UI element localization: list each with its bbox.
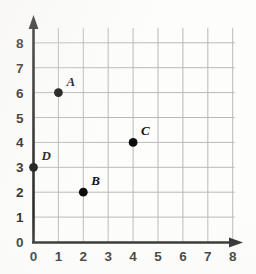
- y-tick-label: 1: [16, 210, 24, 225]
- x-tick-label: 3: [104, 249, 112, 264]
- point-marker-c: [129, 138, 138, 147]
- plotted-point: C: [129, 123, 150, 146]
- y-tick-label: 4: [16, 135, 24, 150]
- y-axis-arrowhead: [29, 15, 39, 29]
- x-tick-label: 2: [80, 249, 88, 264]
- x-tick-label: 0: [30, 249, 38, 264]
- point-marker-d: [29, 163, 38, 172]
- plotted-points-group: ABCD: [29, 74, 150, 197]
- coordinate-plane-plot: 012345678 012345678 ABCD: [0, 0, 256, 274]
- x-tick-label: 8: [229, 249, 237, 264]
- y-tick-label: 6: [16, 86, 24, 101]
- x-axis-tick-labels: 012345678: [30, 249, 237, 264]
- y-tick-label: 5: [16, 111, 24, 126]
- point-marker-b: [79, 188, 88, 197]
- x-axis-arrowhead: [229, 238, 243, 248]
- x-tick-label: 7: [204, 249, 212, 264]
- grid-lines-horizontal: [34, 43, 235, 217]
- y-axis-tick-labels: 012345678: [16, 36, 24, 250]
- y-tick-label: 7: [16, 61, 24, 76]
- x-tick-label: 6: [179, 249, 187, 264]
- y-tick-label: 3: [16, 160, 24, 175]
- coordinate-plane-figure: 012345678 012345678 ABCD: [0, 0, 256, 274]
- point-label-d: D: [41, 148, 52, 163]
- y-tick-label: 0: [16, 235, 24, 250]
- point-marker-a: [54, 88, 63, 97]
- x-tick-label: 5: [154, 249, 162, 264]
- point-label-a: A: [65, 74, 75, 89]
- y-tick-label: 8: [16, 36, 24, 51]
- x-tick-label: 1: [55, 249, 63, 264]
- point-label-b: B: [90, 173, 100, 188]
- plotted-point: B: [79, 173, 100, 196]
- y-tick-label: 2: [16, 185, 24, 200]
- point-label-c: C: [141, 123, 150, 138]
- x-tick-label: 4: [129, 249, 137, 264]
- plotted-point: A: [54, 74, 75, 97]
